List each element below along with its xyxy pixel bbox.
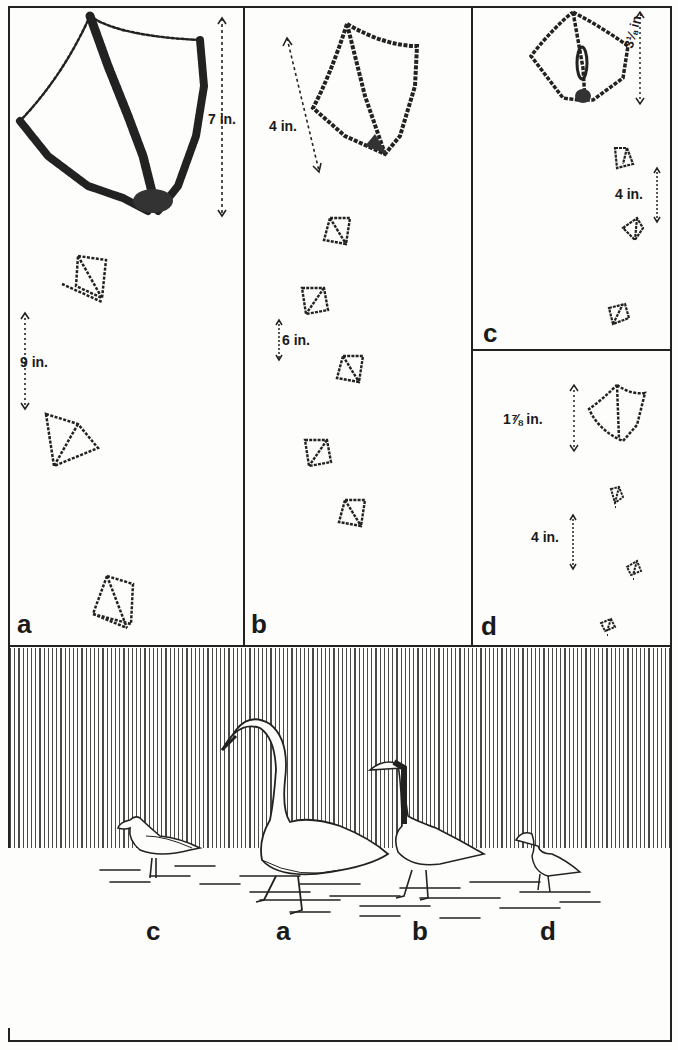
measure-arrow-4in-icon (653, 166, 661, 224)
goose-footprint-large-icon (305, 16, 425, 166)
panel-label-d: d (481, 613, 497, 639)
swan-footprint-icon (36, 408, 106, 468)
panel-c: 3⅛ in. 4 in. c (473, 6, 672, 349)
goose-footprint-icon (301, 436, 337, 472)
swan-footprint-icon (58, 252, 118, 312)
measure-label-7in: 7 in. (208, 111, 236, 127)
gull-footprint-icon (609, 144, 637, 172)
bird-label-d: d (540, 918, 556, 944)
gull-footprint-large-icon (523, 8, 633, 108)
duck-footprint-icon (623, 557, 645, 581)
measure-label-4in: 4 in. (269, 118, 297, 134)
goose-footprint-icon (333, 352, 369, 388)
gull-bird-icon (118, 817, 200, 878)
gull-footprint-icon (605, 300, 633, 328)
bird-label-a: a (276, 918, 290, 944)
panel-label-c: c (483, 320, 497, 346)
measure-arrow-1-7-8in-icon (569, 383, 579, 453)
measure-label-4in: 4 in. (615, 186, 643, 202)
panel-b: 4 in. 6 in. b (245, 6, 471, 646)
duck-footprint-icon (597, 615, 619, 639)
measure-label-6in: 6 in. (282, 332, 310, 348)
bird-label-c: c (146, 918, 160, 944)
bird-scene-illustration (0, 640, 678, 920)
panel-d: 1⅞ in. 4 in. d (473, 351, 672, 645)
duck-footprint-large-icon (581, 381, 657, 443)
panel-label-a: a (17, 611, 31, 637)
bird-label-b: b (412, 918, 428, 944)
swan-footprint-icon (83, 572, 143, 634)
panel-a: 7 in. 9 in. a (8, 6, 243, 646)
goose-footprint-icon (335, 496, 371, 532)
measure-label-1-7-8in: 1⅞ in. (503, 411, 543, 427)
measure-arrow-4in-icon (569, 513, 577, 571)
measure-arrow-4in-icon (283, 36, 323, 176)
goose-footprint-icon (298, 284, 334, 320)
panel-label-b: b (251, 611, 267, 637)
duck-footprint-icon (607, 485, 627, 509)
duck-bird-icon (516, 833, 580, 892)
measure-label-4in: 4 in. (531, 529, 559, 545)
gull-footprint-icon (619, 214, 647, 242)
measure-label-9in: 9 in. (20, 354, 48, 370)
goose-bird-icon (370, 762, 484, 900)
goose-footprint-icon (320, 214, 356, 250)
